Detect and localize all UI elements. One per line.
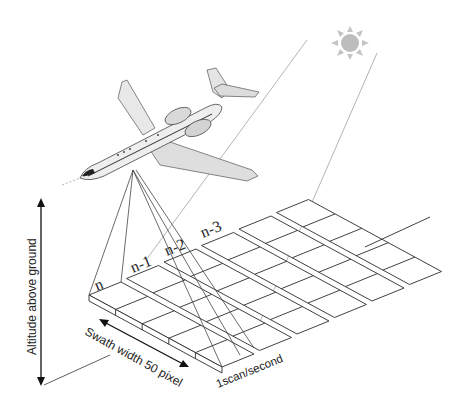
- strip-label-n: n: [92, 275, 106, 294]
- scanner-diagram: Altitude above ground Swath width 50 pix…: [0, 0, 465, 405]
- aircraft-icon: [62, 68, 259, 185]
- flight-direction-line: [365, 217, 430, 247]
- strip-label-n-3: n-3: [198, 217, 224, 241]
- altitude-label: Altitude above ground: [25, 238, 39, 355]
- sun-icon: [331, 26, 369, 60]
